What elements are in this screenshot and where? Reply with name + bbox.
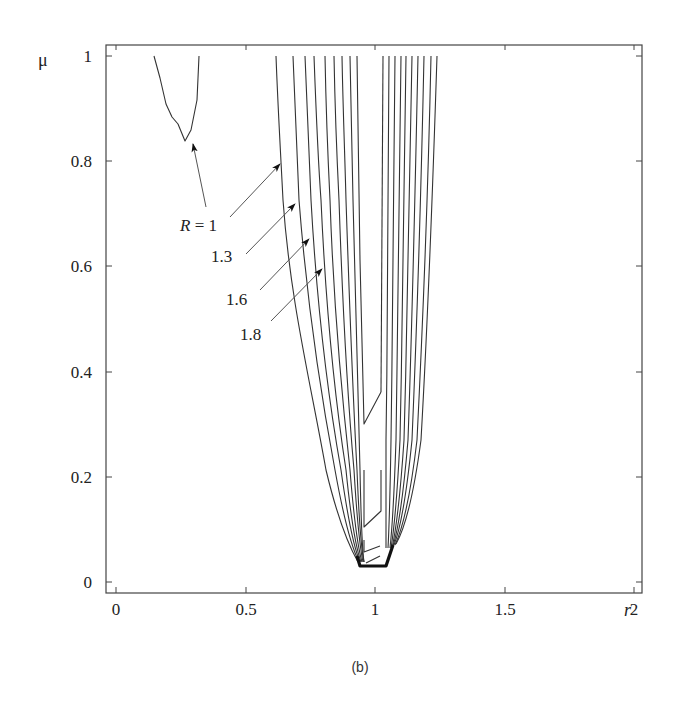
x-axis-label: r: [624, 600, 632, 620]
y-tick-1: 1: [84, 47, 93, 66]
x-tick-0.5: 0.5: [235, 600, 256, 619]
plot-frame: [106, 45, 642, 593]
y-tick-0: 0: [84, 573, 93, 592]
label-r16: 1.6: [226, 290, 247, 309]
contour-left-branches: [276, 56, 381, 562]
x-tick-1.5: 1.5: [494, 600, 515, 619]
y-tick-0.2: 0.2: [71, 468, 92, 487]
label-r13: 1.3: [211, 247, 232, 266]
y-tick-0.6: 0.6: [71, 257, 92, 276]
label-r1: R = 1: [179, 216, 217, 235]
arrow-r16: [260, 239, 309, 290]
y-tick-0.4: 0.4: [71, 363, 93, 382]
contour-r1-small: [154, 56, 199, 141]
contour-inner-connectors: [364, 470, 381, 563]
label-r18: 1.8: [240, 325, 261, 344]
y-tick-0.8: 0.8: [71, 152, 92, 171]
x-tick-0: 0: [112, 600, 121, 619]
x-tick-1: 1: [371, 600, 380, 619]
arrow-r1: [230, 164, 280, 217]
x-axis-ticks: [116, 45, 634, 593]
arrow-r1-small: [193, 144, 206, 207]
x-tick-2: 2: [630, 600, 639, 619]
y-axis-label: μ: [38, 50, 48, 70]
contour-right-branches: [381, 56, 437, 548]
contour-chart: 0 0.5 1 1.5 2 1 0.8 0.6 0.4 0.2 0 μ r: [0, 0, 684, 708]
figure-caption: (b): [351, 659, 368, 675]
y-axis-ticks: [106, 56, 642, 582]
